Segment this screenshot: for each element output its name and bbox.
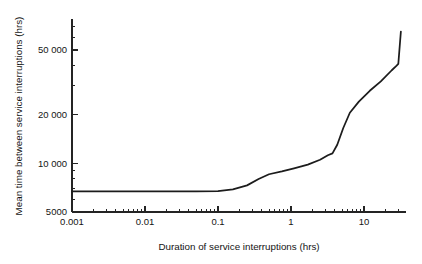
x-tick-label: 0.01 bbox=[136, 216, 155, 227]
chart-plot-area: 0.0010.010.1110 500010 00020 00050 000 D… bbox=[0, 0, 422, 264]
y-tick-label: 50 000 bbox=[38, 44, 67, 55]
x-tick-label: 1 bbox=[288, 216, 293, 227]
x-tick-label: 0.1 bbox=[211, 216, 224, 227]
x-axis-ticks bbox=[72, 206, 399, 212]
y-tick-label: 20 000 bbox=[38, 109, 67, 120]
x-tick-label: 10 bbox=[359, 216, 370, 227]
y-axis-ticks bbox=[72, 26, 78, 212]
y-axis-tick-labels: 500010 00020 00050 000 bbox=[38, 44, 67, 217]
x-tick-label: 0.001 bbox=[60, 216, 84, 227]
x-axis-tick-labels: 0.0010.010.1110 bbox=[60, 216, 369, 227]
data-series-line bbox=[72, 32, 401, 192]
x-axis-title: Duration of service interruptions (hrs) bbox=[158, 241, 319, 252]
y-tick-label: 10 000 bbox=[38, 158, 67, 169]
chart-figure: 0.0010.010.1110 500010 00020 00050 000 D… bbox=[0, 0, 422, 264]
y-axis-title: Mean time between service interruptions … bbox=[13, 17, 24, 216]
y-tick-label: 5000 bbox=[46, 206, 67, 217]
